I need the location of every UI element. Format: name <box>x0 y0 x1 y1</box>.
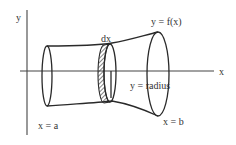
solid-of-revolution-diagram: y x dx y = f(x) y = radius x = a x = b <box>0 0 236 145</box>
right-bound-label: x = b <box>163 116 184 127</box>
dx-label: dx <box>101 33 111 44</box>
x-axis-label: x <box>219 66 224 77</box>
curve-label: y = f(x) <box>151 16 182 28</box>
shaded-disc <box>98 44 116 103</box>
right-end-ellipse <box>147 32 169 116</box>
y-axis-label: y <box>16 12 21 23</box>
left-bound-label: x = a <box>38 120 59 131</box>
radius-label: y = radius <box>130 80 170 91</box>
left-end-ellipse <box>42 46 52 106</box>
bottom-curve <box>47 101 158 116</box>
